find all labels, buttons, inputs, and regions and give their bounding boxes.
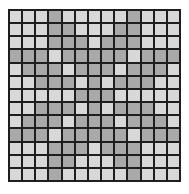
grid-cell[interactable] xyxy=(76,11,87,22)
grid-cell[interactable] xyxy=(89,64,100,75)
grid-cell[interactable] xyxy=(128,64,139,75)
grid-cell[interactable] xyxy=(102,77,113,88)
grid-cell[interactable] xyxy=(142,11,153,22)
grid-cell[interactable] xyxy=(102,103,113,114)
grid-cell[interactable] xyxy=(142,64,153,75)
grid-cell[interactable] xyxy=(36,50,47,61)
grid-cell[interactable] xyxy=(102,50,113,61)
grid-cell[interactable] xyxy=(142,143,153,154)
grid-cell[interactable] xyxy=(102,11,113,22)
grid-cell[interactable] xyxy=(23,169,34,180)
grid-cell[interactable] xyxy=(49,90,60,101)
grid-cell[interactable] xyxy=(63,90,74,101)
grid-cell[interactable] xyxy=(115,64,126,75)
grid-cell[interactable] xyxy=(142,116,153,127)
grid-cell[interactable] xyxy=(155,90,166,101)
grid-cell[interactable] xyxy=(63,77,74,88)
grid-cell[interactable] xyxy=(63,129,74,140)
grid-cell[interactable] xyxy=(10,50,21,61)
grid-cell[interactable] xyxy=(115,11,126,22)
grid-cell[interactable] xyxy=(36,169,47,180)
grid-cell[interactable] xyxy=(36,11,47,22)
grid-cell[interactable] xyxy=(23,50,34,61)
grid-cell[interactable] xyxy=(63,11,74,22)
grid-cell[interactable] xyxy=(49,11,60,22)
grid-cell[interactable] xyxy=(155,156,166,167)
grid-cell[interactable] xyxy=(168,37,179,48)
grid-cell[interactable] xyxy=(115,116,126,127)
grid-cell[interactable] xyxy=(128,143,139,154)
grid-cell[interactable] xyxy=(168,156,179,167)
grid-cell[interactable] xyxy=(23,129,34,140)
grid-cell[interactable] xyxy=(36,156,47,167)
grid-cell[interactable] xyxy=(102,64,113,75)
grid-cell[interactable] xyxy=(10,169,21,180)
grid-cell[interactable] xyxy=(128,24,139,35)
grid-cell[interactable] xyxy=(23,103,34,114)
grid-cell[interactable] xyxy=(49,143,60,154)
grid-cell[interactable] xyxy=(76,90,87,101)
grid-cell[interactable] xyxy=(49,50,60,61)
grid-cell[interactable] xyxy=(168,64,179,75)
grid-cell[interactable] xyxy=(155,103,166,114)
grid-cell[interactable] xyxy=(36,143,47,154)
grid-cell[interactable] xyxy=(63,103,74,114)
grid-cell[interactable] xyxy=(128,103,139,114)
grid-cell[interactable] xyxy=(168,11,179,22)
grid-cell[interactable] xyxy=(10,24,21,35)
grid-cell[interactable] xyxy=(142,90,153,101)
grid-cell[interactable] xyxy=(128,116,139,127)
grid-cell[interactable] xyxy=(115,37,126,48)
grid-cell[interactable] xyxy=(89,90,100,101)
grid-cell[interactable] xyxy=(142,77,153,88)
grid-cell[interactable] xyxy=(102,37,113,48)
grid-cell[interactable] xyxy=(115,129,126,140)
grid-cell[interactable] xyxy=(168,116,179,127)
grid-cell[interactable] xyxy=(49,24,60,35)
grid-cell[interactable] xyxy=(36,116,47,127)
grid-cell[interactable] xyxy=(89,11,100,22)
grid-cell[interactable] xyxy=(63,143,74,154)
grid-cell[interactable] xyxy=(168,129,179,140)
grid-cell[interactable] xyxy=(155,24,166,35)
grid-cell[interactable] xyxy=(76,103,87,114)
grid-cell[interactable] xyxy=(89,37,100,48)
grid-cell[interactable] xyxy=(128,77,139,88)
grid-cell[interactable] xyxy=(23,64,34,75)
grid-cell[interactable] xyxy=(155,64,166,75)
grid-cell[interactable] xyxy=(63,169,74,180)
grid-cell[interactable] xyxy=(128,90,139,101)
grid-cell[interactable] xyxy=(115,103,126,114)
grid-cell[interactable] xyxy=(89,169,100,180)
grid-cell[interactable] xyxy=(155,129,166,140)
grid-cell[interactable] xyxy=(115,90,126,101)
grid-cell[interactable] xyxy=(76,116,87,127)
grid-cell[interactable] xyxy=(10,11,21,22)
grid-cell[interactable] xyxy=(23,11,34,22)
grid-cell[interactable] xyxy=(155,11,166,22)
grid-cell[interactable] xyxy=(63,24,74,35)
grid-cell[interactable] xyxy=(89,143,100,154)
grid-cell[interactable] xyxy=(63,116,74,127)
grid-cell[interactable] xyxy=(128,169,139,180)
grid-cell[interactable] xyxy=(10,116,21,127)
grid-cell[interactable] xyxy=(115,24,126,35)
grid-cell[interactable] xyxy=(49,103,60,114)
grid-cell[interactable] xyxy=(23,116,34,127)
grid-cell[interactable] xyxy=(76,50,87,61)
grid-cell[interactable] xyxy=(102,24,113,35)
grid-cell[interactable] xyxy=(63,37,74,48)
grid-cell[interactable] xyxy=(89,129,100,140)
grid-cell[interactable] xyxy=(36,90,47,101)
grid-cell[interactable] xyxy=(49,77,60,88)
grid-cell[interactable] xyxy=(115,143,126,154)
grid-cell[interactable] xyxy=(76,24,87,35)
grid-cell[interactable] xyxy=(76,77,87,88)
grid-cell[interactable] xyxy=(115,50,126,61)
grid-cell[interactable] xyxy=(36,77,47,88)
grid-cell[interactable] xyxy=(49,129,60,140)
grid-cell[interactable] xyxy=(155,143,166,154)
grid-cell[interactable] xyxy=(115,169,126,180)
grid-cell[interactable] xyxy=(155,50,166,61)
grid-cell[interactable] xyxy=(89,156,100,167)
